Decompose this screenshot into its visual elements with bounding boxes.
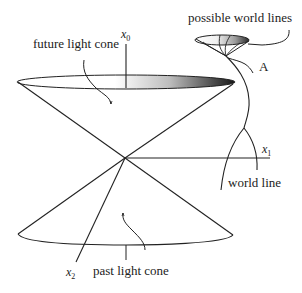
x2-axis-label: x2 bbox=[66, 266, 75, 281]
world-line-label: world line bbox=[228, 176, 281, 189]
future-light-cone-label: future light cone bbox=[33, 37, 119, 50]
x0-axis-label: x0 bbox=[121, 28, 130, 43]
past-light-cone bbox=[18, 158, 233, 260]
point-a-label: A bbox=[259, 60, 268, 73]
world-line bbox=[226, 56, 249, 128]
past-light-cone-label: past light cone bbox=[93, 264, 169, 277]
light-cone-diagram: future light cone x0 possible world line… bbox=[0, 0, 302, 293]
point-a-pointer bbox=[228, 58, 253, 73]
x1-axis-label: x1 bbox=[262, 143, 271, 158]
possible-world-lines-cone bbox=[195, 35, 249, 56]
possible-world-lines-pointer bbox=[248, 30, 289, 45]
possible-world-lines-label: possible world lines bbox=[188, 11, 292, 24]
x2-axis bbox=[76, 158, 125, 262]
